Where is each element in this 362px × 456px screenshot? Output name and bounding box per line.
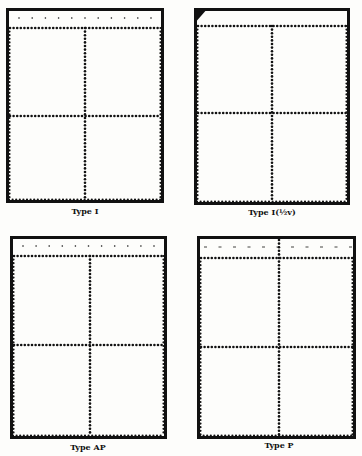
panel-label: Type P — [264, 440, 293, 450]
perforation-lines — [0, 0, 362, 456]
